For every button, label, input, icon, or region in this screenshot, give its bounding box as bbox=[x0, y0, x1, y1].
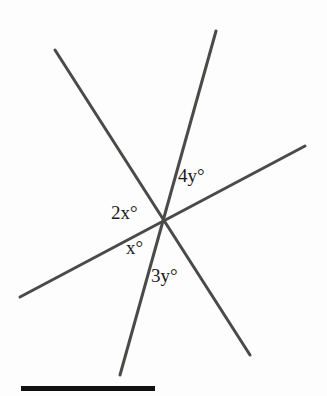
bottom-rule-bar bbox=[21, 386, 155, 391]
angle-label-4y: 4y° bbox=[178, 166, 205, 185]
angle-label-3y: 3y° bbox=[151, 266, 178, 285]
angle-label-x: x° bbox=[126, 238, 143, 257]
line-falling-left-to-right bbox=[55, 50, 250, 355]
angle-label-2x: 2x° bbox=[111, 203, 138, 222]
geometry-figure: 2x° x° 4y° 3y° bbox=[0, 0, 327, 396]
lines-canvas bbox=[0, 0, 327, 396]
